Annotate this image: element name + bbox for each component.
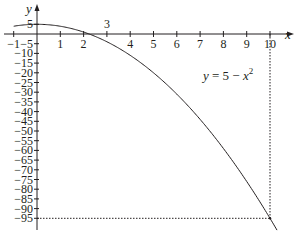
tick-marks <box>14 24 270 218</box>
x-tick-label: 3 <box>104 17 110 31</box>
equation-label: y = 5 − x2 <box>201 66 253 83</box>
x-tick-label: 9 <box>244 37 250 51</box>
y-axis-arrow-icon <box>35 4 40 11</box>
x-tick-label: 5 <box>151 37 157 51</box>
y-axis-label: y <box>24 1 32 16</box>
x-axis-label: x <box>284 27 291 42</box>
x-tick-label: 7 <box>197 37 203 51</box>
equation-middle: = 5 − <box>209 68 243 83</box>
axes <box>4 4 294 230</box>
function-plot: −112345678910 5−5−10−15−20−25−30−35−40−4… <box>0 0 296 235</box>
x-tick-label: 4 <box>127 37 133 51</box>
x-tick-label: 1 <box>57 37 63 51</box>
y-tick-label: −95 <box>14 211 33 225</box>
dotted-guide-lines <box>37 34 271 220</box>
x-tick-label: 2 <box>81 37 87 51</box>
y-tick-labels: 5−5−10−15−20−25−30−35−40−45−50−55−60−65−… <box>14 17 33 225</box>
x-tick-label: 8 <box>220 37 226 51</box>
parabola-curve <box>14 24 277 230</box>
x-tick-label: 6 <box>174 37 180 51</box>
equation-exponent: 2 <box>249 66 254 76</box>
